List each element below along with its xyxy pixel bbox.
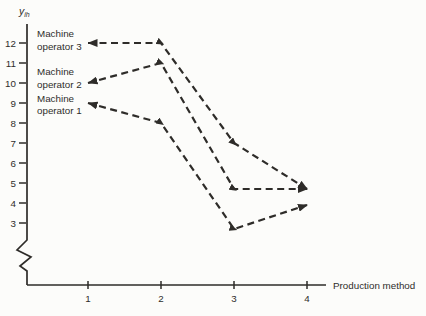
x-tick-label: 2 bbox=[158, 293, 163, 304]
series-label-machine-operator-3: Machine bbox=[37, 28, 75, 39]
series-label-machine-operator-3: operator 3 bbox=[37, 41, 82, 52]
y-tick-label: 5 bbox=[11, 178, 17, 189]
y-tick-label: 10 bbox=[5, 78, 16, 89]
x-tick-label: 3 bbox=[231, 293, 237, 304]
interaction-plot-figure: 12111098765431234Production methodyihMac… bbox=[0, 0, 426, 316]
series-label-machine-operator-1: operator 1 bbox=[37, 105, 82, 116]
x-tick-label: 1 bbox=[85, 293, 90, 304]
series-label-machine-operator-2: operator 2 bbox=[37, 79, 82, 90]
y-tick-label: 7 bbox=[11, 138, 16, 149]
y-tick-label: 12 bbox=[5, 38, 16, 49]
y-tick-label: 4 bbox=[11, 198, 17, 209]
x-tick-label: 4 bbox=[304, 293, 310, 304]
x-axis-title: Production method bbox=[333, 280, 415, 291]
interaction-plot: 12111098765431234Production methodyihMac… bbox=[0, 0, 426, 316]
series-label-machine-operator-1: Machine bbox=[37, 93, 75, 104]
y-tick-label: 6 bbox=[11, 158, 17, 169]
y-tick-label: 3 bbox=[11, 218, 17, 229]
series-label-machine-operator-2: Machine bbox=[37, 66, 75, 77]
y-tick-label: 9 bbox=[11, 98, 16, 109]
y-tick-label: 11 bbox=[6, 58, 16, 69]
y-tick-label: 8 bbox=[11, 118, 17, 129]
